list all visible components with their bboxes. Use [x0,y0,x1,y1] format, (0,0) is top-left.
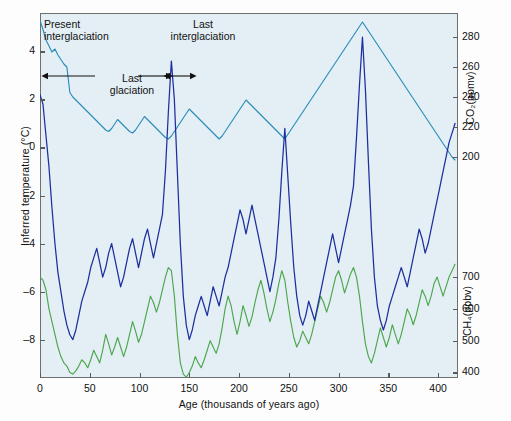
tick-label-temp-4: 4 [9,44,35,56]
annotation-last-glac-line1: Last [96,72,168,84]
annotation-last-intergl-line1: Last [148,18,258,30]
tick-x-50 [90,373,91,378]
y-axis-ch4-title: CH₄(ppbv) [461,256,473,366]
annotation-last-glaciation: Last glaciation [96,72,168,96]
tick-x-400 [438,373,439,378]
tick-co2-260 [453,67,458,68]
x-axis-title: Age (thousands of years ago) [40,398,458,410]
tick-temp--8 [40,340,45,341]
tick-x-0 [40,373,41,378]
tick-label-x-0: 0 [23,382,57,394]
tick-label-co2-280: 280 [462,30,496,42]
annotation-present-line1: Present [44,18,140,30]
tick-ch4-700 [453,277,458,278]
tick-temp--2 [40,196,45,197]
tick-label-x-100: 100 [123,382,157,394]
vostok-ice-core-figure: 420–2–4–6–828026024022020070060050040005… [0,0,511,421]
tick-temp--6 [40,292,45,293]
tick-temp--4 [40,244,45,245]
tick-co2-240 [453,97,458,98]
tick-x-100 [140,373,141,378]
tick-label-x-50: 50 [73,382,107,394]
tick-ch4-400 [453,372,458,373]
y-axis-left-title: Inferred temperature (°C) [19,101,31,271]
tick-ch4-600 [453,309,458,310]
tick-co2-220 [453,127,458,128]
tick-co2-280 [453,37,458,38]
chart-curves [40,13,458,378]
tick-label-x-350: 350 [371,382,405,394]
tick-label-ch4-400: 400 [462,365,496,377]
tick-label-x-400: 400 [421,382,455,394]
tick-temp-4 [40,51,45,52]
ch4-curve [40,264,455,377]
annotation-present-line2: interglaciation [44,30,140,42]
tick-label-temp--8: –8 [9,333,35,345]
annotation-present-interglaciation: Present interglaciation [44,18,140,42]
tick-co2-200 [453,157,458,158]
tick-label-x-150: 150 [172,382,206,394]
tick-x-350 [388,373,389,378]
y-axis-co2-title: CO₂(ppmv) [464,43,476,153]
tick-ch4-500 [453,341,458,342]
tick-temp-0 [40,147,45,148]
tick-x-300 [339,373,340,378]
tick-label-temp--6: –6 [9,285,35,297]
annotation-last-intergl-line2: interglaciation [148,30,258,42]
tick-x-250 [289,373,290,378]
annotation-last-interglaciation: Last interglaciation [148,18,258,42]
tick-x-150 [189,373,190,378]
tick-temp-2 [40,99,45,100]
tick-label-x-200: 200 [222,382,256,394]
tick-label-x-250: 250 [272,382,306,394]
tick-label-x-300: 300 [322,382,356,394]
annotation-last-glac-line2: glaciation [96,84,168,96]
tick-x-200 [239,373,240,378]
